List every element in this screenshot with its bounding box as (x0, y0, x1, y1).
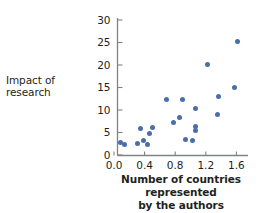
x-tick-label: 1.2 (194, 160, 218, 171)
data-point (164, 97, 169, 102)
y-tick-label: 30 (89, 15, 111, 26)
y-tick-label: 5 (89, 127, 111, 138)
x-tick-label: 0.8 (163, 160, 187, 171)
y-tick-label: 10 (89, 105, 111, 116)
data-point (190, 138, 195, 143)
x-axis-label-line-2: by the authors (88, 199, 274, 212)
x-tick-label: 1.6 (224, 160, 248, 171)
data-point (177, 115, 182, 120)
data-point (145, 142, 150, 147)
x-tick-label: 0.4 (133, 160, 157, 171)
y-tick-label: 25 (89, 37, 111, 48)
x-axis-label: Number of countries represented by the a… (88, 173, 274, 212)
y-tick-label: 20 (89, 60, 111, 71)
y-tick-label: 15 (89, 82, 111, 93)
data-point (150, 125, 155, 130)
scatter-plot-figure: Impact of research 051015202530 0.00.40.… (0, 0, 275, 213)
data-point (122, 142, 127, 147)
data-point (205, 62, 210, 67)
x-axis-label-line-1: Number of countries represented (121, 173, 241, 198)
x-tick-label: 0.0 (102, 160, 126, 171)
data-point (171, 120, 176, 125)
data-point (183, 137, 188, 142)
data-point (135, 141, 140, 146)
